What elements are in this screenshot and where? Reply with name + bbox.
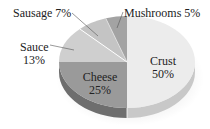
- label-sauce-pct: 13%: [23, 54, 45, 66]
- label-sausage: Sausage 7%: [13, 7, 71, 19]
- label-mushrooms: Mushrooms 5%: [124, 7, 200, 19]
- label-crust-pct: 50%: [143, 68, 183, 80]
- label-cheese-pct: 25%: [78, 84, 122, 96]
- label-sauce-name: Sauce: [20, 41, 49, 53]
- label-crust-name: Crust: [143, 55, 183, 67]
- label-cheese-name: Cheese: [78, 71, 122, 83]
